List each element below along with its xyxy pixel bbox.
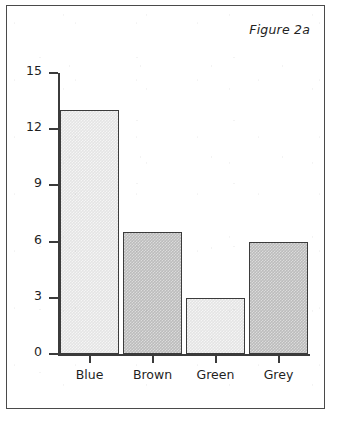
x-axis-tick — [152, 354, 154, 363]
y-axis-tick: 12 — [49, 128, 58, 130]
bar-grey — [249, 242, 308, 354]
x-axis-label-brown: Brown — [133, 367, 172, 382]
y-axis-tick-label: 9 — [34, 175, 42, 190]
bar-blue — [60, 110, 119, 354]
y-axis-tick-label: 12 — [26, 119, 42, 134]
y-axis-tick-label: 6 — [34, 232, 42, 247]
y-axis-tick: 3 — [49, 297, 58, 299]
figure-caption: Figure 2a — [249, 22, 310, 37]
y-axis-tick: 9 — [49, 184, 58, 186]
x-axis-tick — [215, 354, 217, 363]
bar-chart-plot-area: 03691215 BlueBrownGreenGrey — [58, 73, 310, 354]
x-axis-label-blue: Blue — [76, 367, 104, 382]
y-axis-tick: 0 — [49, 353, 58, 355]
y-axis-tick: 6 — [49, 241, 58, 243]
figure-frame: Figure 2a 03691215 BlueBrownGreenGrey — [6, 5, 325, 409]
x-axis-label-grey: Grey — [264, 367, 294, 382]
x-axis-tick — [278, 354, 280, 363]
x-axis-label-green: Green — [197, 367, 235, 382]
y-axis-tick-label: 15 — [26, 63, 42, 78]
y-axis-tick: 15 — [49, 72, 58, 74]
bar-green — [186, 298, 245, 354]
x-axis-tick — [89, 354, 91, 363]
x-axis-line — [58, 354, 310, 356]
bar-brown — [123, 232, 182, 354]
y-axis-tick-label: 3 — [34, 288, 42, 303]
y-axis-tick-label: 0 — [34, 344, 42, 359]
